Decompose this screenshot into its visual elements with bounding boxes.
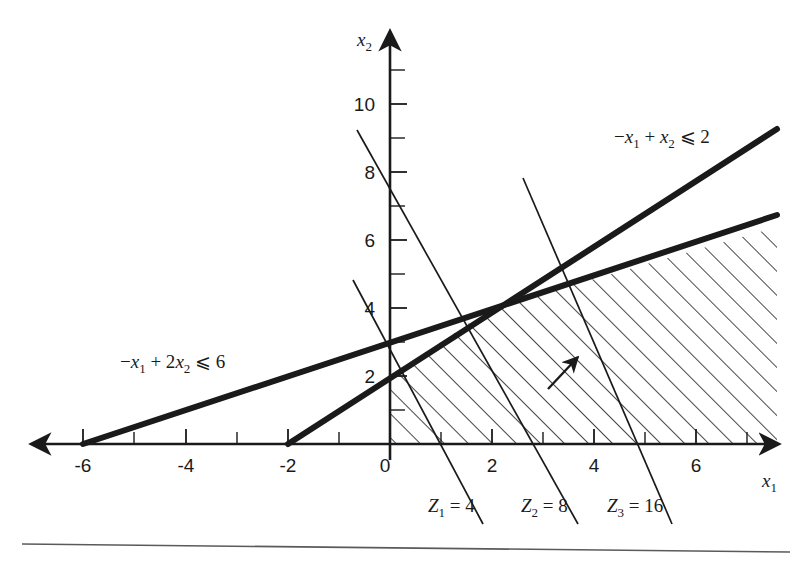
x-tick-label: -2 <box>280 455 297 476</box>
y-axis-tick-labels: 2 4 6 8 10 <box>354 94 376 387</box>
y-tick-label: 2 <box>364 366 375 387</box>
y-tick-label: 10 <box>354 94 375 115</box>
constraint-label-c1: −x1 + 2x2 ⩽ 6 <box>120 351 225 376</box>
x-tick-label: -6 <box>75 455 92 476</box>
x-axis-label: x1 <box>761 470 777 495</box>
constraint-label-c2: −x1 + x2 ⩽ 2 <box>614 126 710 151</box>
x-axis-tick-labels: -6 -4 -2 0 2 4 6 <box>75 455 702 476</box>
objective-label-z2: Z2 = 8 <box>521 495 568 520</box>
feasible-region-hatching <box>380 210 790 454</box>
linear-programming-graph: -6 -4 -2 0 2 4 6 2 4 6 8 10 x1 x2 −x1 + … <box>0 0 804 564</box>
feasible-region <box>380 210 790 454</box>
y-tick-label: 8 <box>364 162 375 183</box>
x-tick-label: 4 <box>589 455 600 476</box>
x-tick-label: 6 <box>691 455 702 476</box>
y-tick-label: 6 <box>364 230 375 251</box>
x-tick-label: 2 <box>487 455 498 476</box>
x-tick-label-origin: 0 <box>380 455 391 476</box>
footer-rule <box>22 544 790 552</box>
objective-label-z3: Z3 = 16 <box>607 495 663 520</box>
x-tick-label: -4 <box>178 455 195 476</box>
y-axis-ticks <box>390 70 407 410</box>
graph-canvas: -6 -4 -2 0 2 4 6 2 4 6 8 10 x1 x2 −x1 + … <box>0 0 804 564</box>
objective-label-z1: Z1 = 4 <box>428 495 475 520</box>
y-tick-label: 4 <box>364 298 375 319</box>
y-axis-label: x2 <box>356 29 372 54</box>
